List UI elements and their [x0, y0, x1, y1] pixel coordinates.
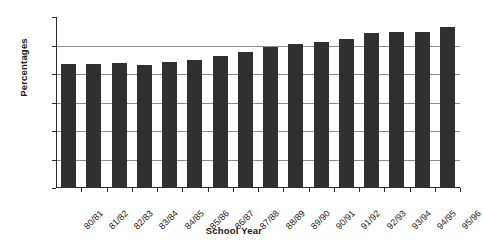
y-tick-mark [52, 74, 56, 75]
x-tick-mark [132, 188, 133, 192]
x-tick-mark [157, 188, 158, 192]
bar [415, 32, 430, 187]
x-tick-mark [435, 188, 436, 192]
y-tick-mark [52, 188, 56, 189]
x-tick-mark [283, 188, 284, 192]
x-tick-mark [359, 188, 360, 192]
y-axis-title: Percentages [18, 13, 29, 123]
bar [288, 44, 303, 187]
x-tick-mark [384, 188, 385, 192]
y-tick-mark [52, 103, 56, 104]
x-tick-mark [182, 188, 183, 192]
x-tick-mark [334, 188, 335, 192]
x-tick-mark [309, 188, 310, 192]
x-tick-mark [460, 188, 461, 192]
x-tick-mark [233, 188, 234, 192]
bar [213, 56, 228, 187]
bar [162, 62, 177, 187]
y-tick-mark [52, 17, 56, 18]
bar [137, 65, 152, 187]
x-tick-mark [107, 188, 108, 192]
x-tick-mark [81, 188, 82, 192]
y-tick-mark [52, 46, 56, 47]
x-tick-mark [410, 188, 411, 192]
y-tick-mark [52, 131, 56, 132]
bar [314, 42, 329, 187]
bar [339, 39, 354, 187]
bar [238, 52, 253, 187]
bar [112, 63, 127, 187]
y-tick-mark [52, 160, 56, 161]
bar [263, 47, 278, 187]
bar [187, 60, 202, 187]
x-axis-title: School Year [0, 225, 468, 236]
x-tick-mark [258, 188, 259, 192]
plot-area: 6.05.04.03.02.01.00.0 80/8181/8282/8383/… [56, 17, 460, 188]
bar [440, 27, 455, 187]
x-tick-mark [208, 188, 209, 192]
bar [364, 33, 379, 187]
bar [61, 64, 76, 187]
bar [389, 32, 404, 187]
bar [86, 64, 101, 187]
